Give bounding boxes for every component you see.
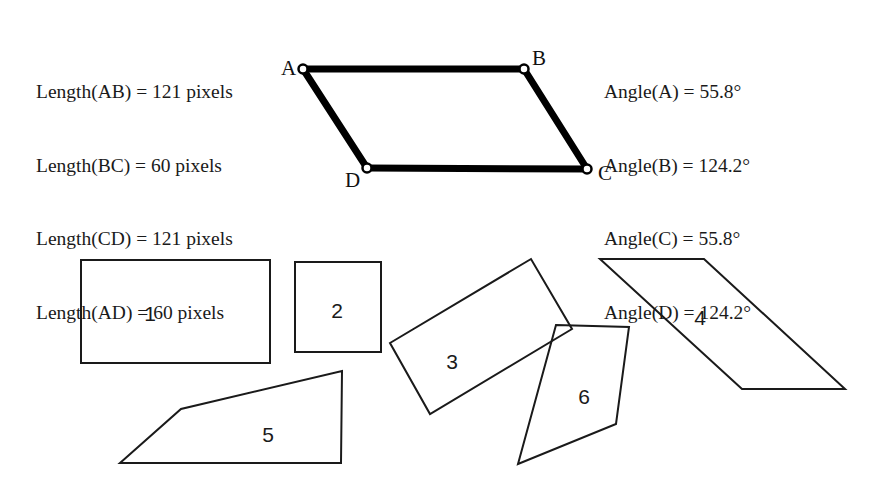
shape-number-label-1: 1: [144, 303, 156, 324]
vertex-label-b: B: [532, 48, 546, 69]
geometry-figure-page: Length(AB) = 121 pixels Length(BC) = 60 …: [0, 0, 889, 497]
shape-number-label-2: 2: [331, 300, 343, 321]
reference-parallelogram: [299, 65, 592, 174]
vertex-label-d: D: [345, 170, 360, 191]
candidate-shape-6[interactable]: [518, 325, 629, 464]
candidate-shape-3[interactable]: [390, 259, 572, 414]
shape-number-label-4: 4: [694, 307, 706, 328]
shape-number-label-3: 3: [446, 351, 458, 372]
vertex-label-c: C: [598, 163, 612, 184]
vertex-marker-a[interactable]: [299, 65, 308, 74]
shape-number-label-5: 5: [262, 424, 274, 445]
vertex-marker-c[interactable]: [583, 165, 592, 174]
candidate-shape-5[interactable]: [120, 371, 342, 463]
parallelogram-edge-bc: [524, 69, 587, 169]
parallelogram-edge-da: [303, 69, 367, 168]
candidate-shape-4[interactable]: [600, 259, 845, 389]
vertex-label-a: A: [281, 58, 296, 79]
figures-canvas: [0, 0, 889, 497]
candidate-shapes-group: [81, 259, 845, 464]
parallelogram-edge-cd: [367, 168, 587, 169]
vertex-marker-d[interactable]: [363, 164, 372, 173]
vertex-marker-b[interactable]: [520, 65, 529, 74]
shape-number-label-6: 6: [578, 386, 590, 407]
candidate-shape-1[interactable]: [81, 260, 270, 363]
